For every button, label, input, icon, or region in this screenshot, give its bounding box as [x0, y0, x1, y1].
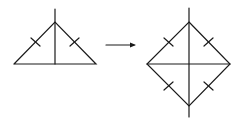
- isosceles-triangle: [14, 9, 96, 64]
- rhombus: [147, 8, 230, 117]
- right-arrow-icon: [106, 43, 136, 48]
- diagram-canvas: [0, 0, 239, 121]
